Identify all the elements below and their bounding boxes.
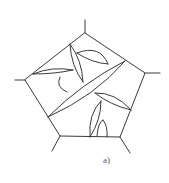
pentagon-diagram xyxy=(0,0,169,183)
figure-caption: a) xyxy=(103,155,110,165)
lens-upper-vertical-a xyxy=(70,44,83,82)
lens-upper-vertical-b xyxy=(70,44,83,82)
arc-upper-right xyxy=(77,50,108,64)
spoke-bottom-right xyxy=(120,137,130,153)
lens-central-lower xyxy=(48,61,125,117)
arc-upper-right-inner xyxy=(77,53,108,64)
arc-lower-small-a xyxy=(97,120,103,136)
arc-small-left xyxy=(59,77,67,92)
arc-lower-small-b xyxy=(103,120,107,137)
spoke-bottom-left xyxy=(52,136,60,151)
lens-central-upper xyxy=(48,61,125,117)
lens-lower-vertical-a xyxy=(90,101,101,137)
lens-lower-vertical-b xyxy=(90,101,101,137)
